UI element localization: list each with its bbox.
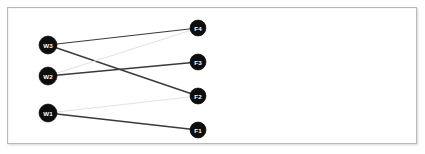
node-label-f4: F4 bbox=[194, 25, 202, 32]
graph-node-w1[interactable]: W1 bbox=[39, 104, 57, 122]
graph-panel: W3W2W1F4F3F2F1 bbox=[7, 7, 417, 144]
graph-node-w2[interactable]: W2 bbox=[39, 67, 57, 85]
node-label-w2: W2 bbox=[43, 73, 53, 80]
graph-edge-w1-f1 bbox=[48, 113, 198, 130]
graph-node-f3[interactable]: F3 bbox=[190, 54, 206, 70]
app-root: W3W2W1F4F3F2F1 bbox=[0, 0, 425, 154]
graph-edge-w3-f4 bbox=[48, 28, 198, 45]
graph-node-f1[interactable]: F1 bbox=[190, 122, 206, 138]
graph-node-w3[interactable]: W3 bbox=[39, 36, 57, 54]
graph-node-f2[interactable]: F2 bbox=[190, 88, 206, 104]
graph-edge-w3-f2 bbox=[48, 45, 198, 96]
bipartite-graph-canvas: W3W2W1F4F3F2F1 bbox=[8, 8, 418, 145]
node-layer: W3W2W1F4F3F2F1 bbox=[39, 20, 206, 138]
node-label-w1: W1 bbox=[43, 110, 53, 117]
graph-node-f4[interactable]: F4 bbox=[190, 20, 206, 36]
node-label-w3: W3 bbox=[43, 42, 53, 49]
node-label-f2: F2 bbox=[194, 93, 202, 100]
node-label-f3: F3 bbox=[194, 59, 202, 66]
graph-edge-w1-f2 bbox=[48, 96, 198, 113]
node-label-f1: F1 bbox=[194, 127, 202, 134]
edge-layer bbox=[48, 28, 198, 130]
